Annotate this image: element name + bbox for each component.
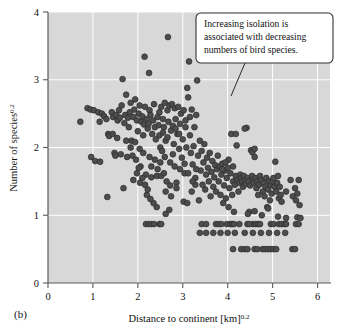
data-point — [104, 116, 110, 122]
x-axis-title: Distance to continent [km]0.2 — [128, 313, 250, 325]
data-point — [208, 193, 214, 199]
data-point — [161, 170, 167, 176]
data-point — [283, 189, 289, 195]
data-point — [175, 104, 181, 110]
data-point — [259, 212, 265, 218]
data-point — [201, 141, 207, 147]
data-point — [227, 170, 233, 176]
data-point — [121, 185, 127, 191]
data-point — [155, 166, 161, 172]
data-point — [130, 177, 136, 183]
data-point — [262, 193, 268, 199]
data-point — [225, 165, 231, 171]
data-point — [194, 78, 200, 84]
data-point — [225, 230, 231, 236]
data-point — [183, 124, 189, 130]
data-point — [267, 197, 273, 203]
data-point — [184, 200, 190, 206]
svg-text:Distance to continent [km]0.2: Distance to continent [km]0.2 — [128, 313, 250, 325]
data-point — [209, 169, 215, 175]
data-point — [236, 189, 242, 195]
data-point — [296, 177, 302, 183]
data-point — [229, 192, 235, 198]
data-point — [137, 103, 143, 109]
data-point — [219, 166, 225, 172]
data-point — [288, 177, 294, 183]
data-point — [119, 103, 125, 109]
data-point — [170, 151, 176, 157]
data-point — [257, 221, 263, 227]
data-point — [157, 109, 163, 115]
data-point — [147, 154, 153, 160]
data-point — [192, 124, 198, 130]
panel-label: (b) — [14, 308, 27, 321]
data-point — [114, 135, 120, 141]
data-point — [174, 180, 180, 186]
data-point — [215, 153, 221, 159]
data-point — [112, 153, 118, 159]
data-point — [297, 202, 303, 208]
x-tick-label: 1 — [90, 291, 95, 302]
figure-panel-b: 0123456 01234 Distance to continent [km]… — [0, 0, 342, 330]
data-point — [279, 199, 285, 205]
x-axis-title-exponent: 0.2 — [241, 313, 250, 321]
y-tick-label: 0 — [34, 278, 39, 289]
data-point — [223, 195, 229, 201]
data-point — [197, 230, 203, 236]
data-point — [231, 221, 237, 227]
data-point — [177, 121, 183, 127]
data-point — [236, 221, 242, 227]
data-point — [158, 221, 164, 227]
data-point — [275, 214, 281, 220]
data-point — [242, 126, 248, 132]
data-point — [232, 230, 238, 236]
data-point — [296, 221, 302, 227]
data-point — [148, 174, 154, 180]
data-point — [250, 230, 256, 236]
data-point — [218, 221, 224, 227]
data-point — [189, 107, 195, 113]
data-point — [128, 145, 134, 151]
data-point — [207, 150, 213, 156]
data-point — [159, 148, 165, 154]
data-point — [140, 132, 146, 138]
data-point — [254, 246, 260, 252]
svg-text:Number of species0.2: Number of species0.2 — [8, 104, 20, 192]
data-point — [275, 173, 281, 179]
data-point — [123, 138, 129, 144]
x-tick-label: 0 — [45, 291, 50, 302]
data-point — [120, 76, 126, 82]
data-point — [203, 230, 209, 236]
data-point — [277, 184, 283, 190]
data-point — [271, 221, 277, 227]
data-point — [294, 191, 300, 197]
data-point — [97, 159, 103, 165]
data-point — [272, 159, 278, 165]
data-point — [166, 207, 172, 213]
y-tick-label: 4 — [34, 7, 40, 18]
data-point — [186, 59, 192, 65]
data-point — [148, 112, 154, 118]
data-point — [203, 221, 209, 227]
data-point — [252, 146, 258, 152]
data-point — [242, 230, 248, 236]
data-point — [136, 165, 142, 171]
data-point — [187, 132, 193, 138]
data-point — [176, 146, 182, 152]
data-point — [181, 107, 187, 113]
data-point — [233, 131, 239, 137]
data-point — [273, 246, 279, 252]
data-point — [227, 185, 233, 191]
y-axis-title-text: Number of species — [8, 113, 19, 192]
y-axis-title: Number of species0.2 — [8, 104, 20, 192]
data-point — [265, 206, 271, 212]
data-point — [199, 148, 205, 154]
data-point — [149, 131, 155, 137]
data-point — [258, 230, 264, 236]
data-point — [134, 170, 140, 176]
data-point — [168, 193, 174, 199]
data-point — [151, 101, 157, 107]
data-point — [148, 196, 154, 202]
callout-line-1: Increasing isolation is — [204, 18, 288, 29]
data-point — [165, 34, 171, 40]
